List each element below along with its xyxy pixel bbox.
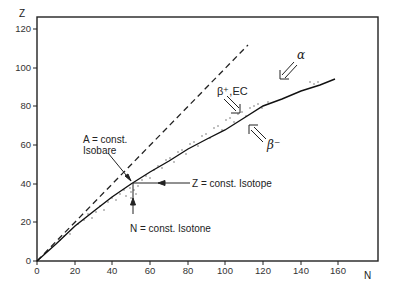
isotone-label: N = const. Isotone bbox=[130, 223, 211, 234]
x-axis-label: N bbox=[364, 270, 371, 281]
x-tick-100: 100 bbox=[213, 266, 237, 276]
x-tick-40: 40 bbox=[100, 266, 124, 276]
y-tick-100: 100 bbox=[7, 63, 31, 73]
isobar-sublabel: Isobare bbox=[83, 145, 116, 156]
beta-plus-arrow-icon bbox=[224, 96, 240, 113]
alpha-label: α bbox=[297, 50, 305, 61]
x-tick-80: 80 bbox=[176, 266, 200, 276]
chart-canvas bbox=[0, 0, 394, 293]
isobar-label: A = const. bbox=[83, 134, 127, 145]
x-tick-0: 0 bbox=[25, 266, 49, 276]
beta-plus-ec-label: β⁺,EC bbox=[217, 86, 248, 97]
x-tick-120: 120 bbox=[251, 266, 275, 276]
x-tick-20: 20 bbox=[63, 266, 87, 276]
isobar-arrow bbox=[108, 153, 131, 181]
isotope-arrow bbox=[133, 181, 190, 186]
alpha-arrow-icon bbox=[280, 62, 297, 79]
y-axis-label: Z bbox=[19, 8, 25, 19]
beta-minus-arrow-icon bbox=[249, 125, 266, 142]
nuclide-scatter bbox=[59, 81, 318, 240]
x-tick-160: 160 bbox=[326, 266, 350, 276]
x-tick-140: 140 bbox=[289, 266, 313, 276]
y-tick-0: 0 bbox=[7, 256, 31, 266]
y-tick-60: 60 bbox=[7, 140, 31, 150]
y-tick-20: 20 bbox=[7, 217, 31, 227]
x-tick-60: 60 bbox=[138, 266, 162, 276]
y-tick-120: 120 bbox=[7, 24, 31, 34]
beta-minus-label: β⁻ bbox=[267, 140, 280, 151]
y-tick-40: 40 bbox=[7, 179, 31, 189]
isotope-label: Z = const. Isotope bbox=[192, 178, 272, 189]
y-tick-80: 80 bbox=[7, 101, 31, 111]
